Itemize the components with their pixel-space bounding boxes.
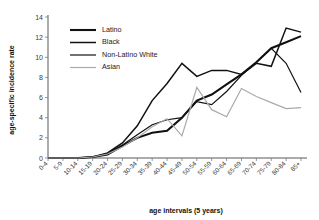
legend-label-latino: Latino [102,25,122,34]
legend-label-asian: Asian [102,62,120,71]
x-axis-title: age intervals (5 years) [149,207,223,215]
legend-label-non-latino-white: Non-Latino White [102,50,158,59]
y-tick-label: 6 [39,94,43,101]
y-tick-label: 14 [35,14,43,21]
y-axis-title: age-specific incidence rate [8,45,16,135]
y-tick-label: 12 [35,34,43,41]
y-tick-label: 2 [39,134,43,141]
legend-label-black: Black [102,37,120,46]
y-tick-label: 4 [39,114,43,121]
incidence-rate-line-chart: 02468101214 0-45-910-1415-1920-2425-2930… [0,0,319,220]
y-tick-label: 10 [35,54,43,61]
chart-container: 02468101214 0-45-910-1415-1920-2425-2930… [0,0,319,220]
y-tick-label: 8 [39,74,43,81]
